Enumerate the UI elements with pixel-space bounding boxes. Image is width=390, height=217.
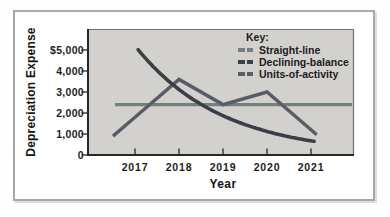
straight-line-swatch-icon: [238, 48, 255, 52]
x-tick-label: 2017: [113, 161, 157, 173]
x-tick-label: 2018: [157, 161, 201, 173]
y-tick-label: 0: [28, 149, 84, 161]
x-tick-label: 2019: [201, 161, 245, 173]
legend-label: Declining-balance: [259, 56, 349, 68]
declining-balance-swatch-icon: [238, 60, 255, 64]
legend-item-straight-line: Straight-line: [238, 44, 349, 56]
y-tick-label: 3,000: [28, 86, 84, 98]
legend-label: Units-of-activity: [259, 68, 338, 80]
y-tick-label: 2,000: [28, 107, 84, 119]
legend-label: Straight-line: [259, 44, 320, 56]
y-tick-label: 1,000: [28, 128, 84, 140]
legend: Key: Straight-line Declining-balance Uni…: [238, 31, 349, 80]
depreciation-comparison-figure: Depreciation Expense $5,000 4,000 3,000 …: [0, 0, 390, 217]
legend-title: Key:: [246, 31, 349, 43]
legend-item-units-of-activity: Units-of-activity: [238, 68, 349, 80]
units-of-activity-swatch-icon: [238, 72, 255, 76]
legend-item-declining-balance: Declining-balance: [238, 56, 349, 68]
x-tick-label: 2021: [289, 161, 333, 173]
y-tick-label: $5,000: [28, 44, 84, 56]
x-tick-label: 2020: [245, 161, 289, 173]
x-axis-title: Year: [201, 177, 245, 191]
y-tick-label: 4,000: [28, 65, 84, 77]
